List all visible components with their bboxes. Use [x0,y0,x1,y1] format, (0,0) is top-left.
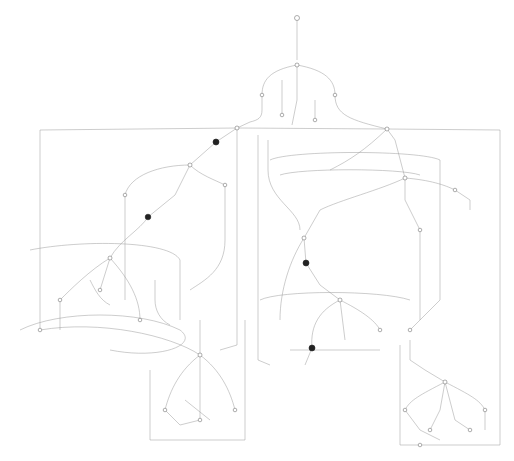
state-node[interactable] [302,236,306,240]
state-node[interactable] [138,318,142,322]
state-node[interactable] [338,298,342,302]
state-node[interactable] [428,428,432,432]
start-node[interactable] [295,16,300,21]
filled-state-node[interactable] [145,214,151,220]
state-node[interactable] [58,298,62,302]
nodes [38,16,487,447]
state-node[interactable] [198,418,202,422]
filled-state-node[interactable] [213,139,219,145]
filled-state-node[interactable] [303,260,309,266]
state-node[interactable] [333,93,337,97]
state-node[interactable] [385,127,389,131]
state-node[interactable] [235,126,239,130]
state-node[interactable] [418,228,422,232]
state-node[interactable] [408,328,412,332]
state-node[interactable] [223,183,227,187]
state-node[interactable] [313,118,317,122]
state-node[interactable] [123,193,127,197]
state-node[interactable] [443,380,447,384]
state-node[interactable] [483,408,487,412]
filled-state-node[interactable] [309,345,315,351]
state-node[interactable] [295,63,299,67]
state-node[interactable] [98,288,102,292]
state-node[interactable] [233,408,237,412]
state-node[interactable] [403,408,407,412]
state-node[interactable] [188,163,192,167]
edges [20,20,500,445]
state-node[interactable] [108,256,112,260]
diagram-svg [0,0,514,461]
state-diagram [0,0,514,461]
state-node[interactable] [280,113,284,117]
state-node[interactable] [403,176,407,180]
state-node[interactable] [163,408,167,412]
state-node[interactable] [198,353,202,357]
state-node[interactable] [260,93,264,97]
state-node[interactable] [418,443,422,447]
state-node[interactable] [453,188,457,192]
state-node[interactable] [38,328,42,332]
state-node[interactable] [378,328,382,332]
state-node[interactable] [468,428,472,432]
